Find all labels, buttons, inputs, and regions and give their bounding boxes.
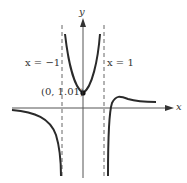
curve-left-branch xyxy=(12,110,61,176)
min-point-label: (0, 1.01) xyxy=(41,86,84,97)
x-axis-arrow-icon xyxy=(165,105,174,111)
y-axis-label: y xyxy=(79,6,85,17)
graph-canvas xyxy=(0,0,187,183)
function-graph: y x x = −1 x = 1 (0, 1.01) xyxy=(0,0,187,183)
curve-right-branch xyxy=(108,97,156,176)
right-asymptote-label: x = 1 xyxy=(107,57,134,68)
y-axis-arrow-icon xyxy=(80,18,86,27)
left-asymptote-label: x = −1 xyxy=(25,57,60,68)
x-axis-label: x xyxy=(176,101,182,112)
